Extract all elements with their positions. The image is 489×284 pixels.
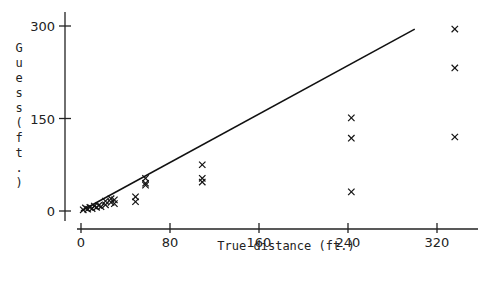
- x-marker: [452, 26, 458, 32]
- y-axis-title: Guess(ft.): [15, 41, 22, 190]
- y-axis-title-char: ): [15, 176, 22, 190]
- x-axis-title: True distance (ft.): [217, 239, 354, 253]
- y-tick-label: 0: [47, 204, 55, 219]
- x-tick-label: 0: [77, 235, 85, 250]
- x-marker: [452, 65, 458, 71]
- y-tick-label: 150: [30, 112, 55, 127]
- y-axis-title-char: e: [15, 71, 22, 85]
- x-marker: [96, 202, 102, 208]
- x-marker: [102, 198, 108, 204]
- y-axis-title-char: t: [15, 146, 22, 160]
- x-marker: [348, 115, 354, 121]
- data-points: [80, 26, 458, 213]
- y-axis-title-char: u: [15, 56, 22, 70]
- x-tick-label: 80: [162, 235, 179, 250]
- y-axis-title-char: s: [15, 86, 22, 100]
- y-axis-title-char: .: [15, 161, 22, 175]
- y-axis-title-char: (: [15, 116, 22, 130]
- y-axis-title-char: G: [15, 41, 22, 55]
- scatter-chart: 0150300 080160240320 True distance (ft.)…: [0, 0, 489, 284]
- x-marker: [348, 189, 354, 195]
- y-axis-title-char: f: [15, 131, 22, 145]
- y-axis-title-char: s: [15, 101, 22, 115]
- x-marker: [452, 134, 458, 140]
- reference-line: [81, 29, 415, 211]
- y-tick-label: 300: [30, 19, 55, 34]
- x-marker: [199, 162, 205, 168]
- x-tick-label: 320: [425, 235, 450, 250]
- x-marker: [132, 194, 138, 200]
- x-marker: [199, 175, 205, 181]
- x-marker: [348, 135, 354, 141]
